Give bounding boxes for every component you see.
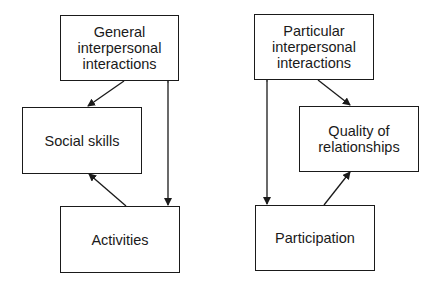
node-participation: Participation — [255, 205, 375, 271]
node-particular-interpersonal-interactions: Particular interpersonal interactions — [254, 14, 374, 80]
arrow-particular-to-quality — [318, 80, 350, 105]
node-social-skills: Social skills — [22, 107, 142, 174]
arrow-activities-to-social-skills — [89, 174, 126, 206]
arrow-general-to-social-skills — [88, 81, 124, 106]
node-quality-of-relationships: Quality of relationships — [299, 106, 419, 172]
arrow-participation-to-quality — [324, 172, 350, 205]
node-activities: Activities — [60, 206, 180, 273]
node-general-interpersonal-interactions: General interpersonal interactions — [60, 15, 179, 81]
